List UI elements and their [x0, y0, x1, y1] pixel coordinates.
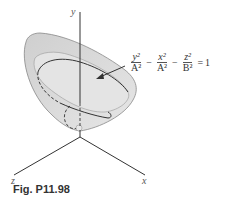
figure-caption: Fig. P11.98	[13, 183, 70, 195]
y-axis-label: y	[71, 6, 75, 17]
term-1: y² A²	[130, 52, 142, 73]
x-axis-label: x	[142, 175, 146, 186]
vertex-point	[76, 125, 82, 131]
rhs: 1	[205, 57, 210, 68]
term-3: z² B²	[182, 52, 194, 73]
equation: y² A² − x² A² − z² B² = 1	[128, 52, 210, 73]
term-2: x² A²	[156, 52, 168, 73]
x-axis	[80, 137, 145, 175]
z-axis	[14, 137, 80, 175]
hyperboloid-diagram	[0, 0, 226, 202]
